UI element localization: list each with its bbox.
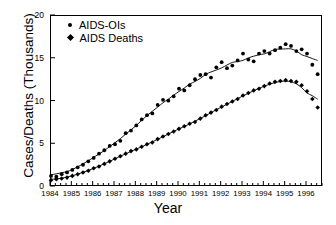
data-point xyxy=(156,103,160,107)
data-point xyxy=(91,166,96,171)
data-point xyxy=(262,84,267,89)
data-point xyxy=(278,79,283,84)
legend: AIDS-OIs AIDS Deaths xyxy=(66,18,143,44)
y-axis-title: Cases/Deaths (Thousands) xyxy=(21,6,36,186)
data-point xyxy=(214,65,218,69)
data-point xyxy=(134,124,138,128)
data-point xyxy=(49,174,53,178)
series-aids-ois xyxy=(49,42,319,178)
data-point xyxy=(139,145,144,150)
data-point xyxy=(166,132,171,137)
data-point xyxy=(161,98,165,102)
data-point xyxy=(86,159,90,163)
y-tick-label: 20 xyxy=(14,11,44,20)
aids-chart: Cases/Deaths (Thousands) Year 05101520 1… xyxy=(0,0,336,225)
legend-label: AIDS Deaths xyxy=(80,32,144,44)
data-point xyxy=(310,97,315,102)
data-point xyxy=(129,149,134,154)
data-point xyxy=(198,116,203,121)
data-point xyxy=(60,172,64,176)
data-point xyxy=(236,59,240,63)
x-tick-label: 1996 xyxy=(286,190,326,198)
data-point xyxy=(140,118,144,122)
data-point xyxy=(262,49,266,53)
x-axis-title: Year xyxy=(0,200,336,216)
data-point xyxy=(145,142,150,147)
data-point xyxy=(225,102,230,107)
data-point xyxy=(230,64,234,68)
data-point xyxy=(81,163,85,167)
data-point xyxy=(102,162,107,167)
data-point xyxy=(102,148,106,152)
data-point xyxy=(257,86,262,91)
data-point xyxy=(284,42,288,46)
data-point xyxy=(220,60,224,64)
y-tick-label: 5 xyxy=(14,139,44,148)
trend-line xyxy=(51,49,318,175)
data-point xyxy=(177,87,181,91)
data-point xyxy=(257,52,261,56)
data-point xyxy=(172,94,176,98)
data-point xyxy=(193,77,197,81)
legend-label: AIDS-OIs xyxy=(79,19,125,31)
diamond-marker-icon xyxy=(66,34,73,41)
data-point xyxy=(268,52,272,56)
y-tick-label: 15 xyxy=(14,54,44,63)
data-point xyxy=(107,159,112,164)
circle-marker-icon xyxy=(68,23,72,27)
data-point xyxy=(305,52,309,56)
data-point xyxy=(118,154,123,159)
data-point xyxy=(92,156,96,160)
data-point xyxy=(246,58,250,62)
data-point xyxy=(230,99,235,104)
data-point xyxy=(171,129,176,134)
data-point xyxy=(81,170,86,175)
data-point xyxy=(124,131,128,135)
data-point xyxy=(118,139,122,143)
data-point xyxy=(97,164,102,169)
legend-item-aids-deaths: AIDS Deaths xyxy=(66,31,143,44)
data-point xyxy=(283,78,288,83)
data-point xyxy=(300,47,304,51)
data-point xyxy=(123,151,128,156)
data-point xyxy=(188,83,192,87)
data-point xyxy=(70,168,74,172)
data-point xyxy=(198,73,202,77)
data-point xyxy=(209,76,213,80)
legend-item-aids-ois: AIDS-OIs xyxy=(66,18,143,31)
data-point xyxy=(129,129,133,133)
data-point xyxy=(97,152,101,156)
data-point xyxy=(204,72,208,76)
data-point xyxy=(65,171,69,175)
data-point xyxy=(182,124,187,129)
data-point xyxy=(177,127,182,132)
data-point xyxy=(315,105,320,110)
data-point xyxy=(241,52,245,56)
data-point xyxy=(225,66,229,70)
data-point xyxy=(113,156,118,161)
data-point xyxy=(150,112,154,116)
data-point xyxy=(49,178,54,183)
data-point xyxy=(294,49,298,53)
data-point xyxy=(113,142,117,146)
data-point xyxy=(134,147,139,152)
series-aids-deaths xyxy=(49,78,320,183)
trend-line xyxy=(51,81,318,179)
data-point xyxy=(59,176,64,181)
data-point xyxy=(316,72,320,76)
data-point xyxy=(70,174,75,179)
data-point xyxy=(305,89,310,94)
data-point xyxy=(278,46,282,50)
data-point xyxy=(108,144,112,148)
data-point xyxy=(161,134,166,139)
data-point xyxy=(76,165,80,169)
data-point xyxy=(289,44,293,48)
data-point xyxy=(209,110,214,115)
data-point xyxy=(251,88,256,93)
data-point xyxy=(252,59,256,63)
data-point xyxy=(75,172,80,177)
data-point xyxy=(273,48,277,52)
data-point xyxy=(182,88,186,92)
data-point xyxy=(145,113,149,117)
data-point xyxy=(65,175,70,180)
